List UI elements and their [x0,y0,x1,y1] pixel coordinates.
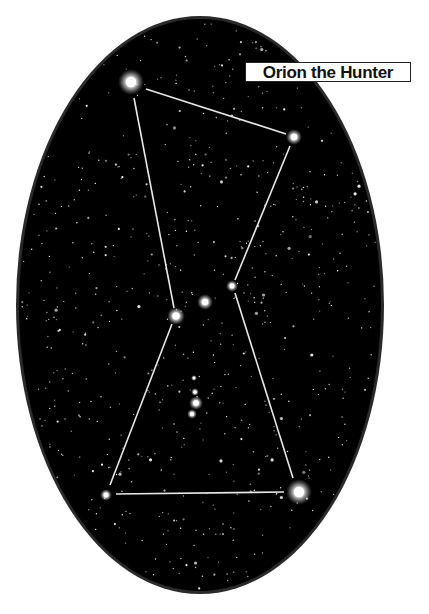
star-sword-2 [191,388,199,396]
star-saiph [100,489,112,501]
star-rigel [286,479,312,505]
star-sword-1 [191,375,197,381]
star-orion-nebula [189,396,203,410]
star-sword-3 [187,409,197,419]
star-chart [0,0,429,614]
star-betelgeuse [118,69,144,95]
star-alnitak [167,307,185,325]
star-bellatrix [286,129,302,145]
title-text: Orion the Hunter [263,64,393,81]
title-label: Orion the Hunter [245,62,411,82]
star-mintaka [226,280,238,292]
star-alnilam [197,294,213,310]
